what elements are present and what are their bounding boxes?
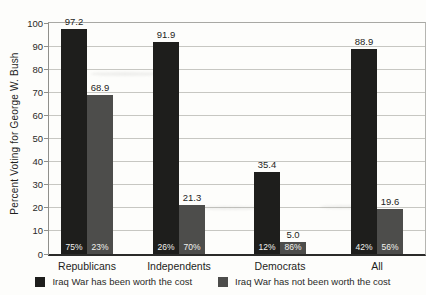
x-category-label-democrats: Democrats [255, 260, 306, 272]
legend-label-worth: Iraq War has been worth the cost [52, 276, 192, 287]
bar-republicans-worth: 97.275% [61, 29, 87, 254]
y-tick-60 [44, 115, 49, 116]
legend-item-worth: Iraq War has been worth the cost [35, 276, 192, 287]
y-tick-20 [44, 207, 49, 208]
bar-chart-figure: Percent Voting for George W. Bush 010203… [0, 0, 426, 295]
scan-artifact [90, 72, 160, 76]
y-tick-80 [44, 69, 49, 70]
legend-label-not-worth: Iraq War has not been worth the cost [235, 276, 390, 287]
y-tick-label-90: 90 [17, 41, 43, 52]
y-tick-label-70: 70 [17, 87, 43, 98]
bar-all-not-worth: 19.656% [377, 209, 403, 254]
y-tick-label-100: 100 [17, 18, 43, 29]
bar-inside-label: 23% [87, 242, 113, 252]
y-tick-label-80: 80 [17, 64, 43, 75]
plot-area: 010203040506070809010097.275%68.923%Repu… [48, 22, 426, 256]
legend-swatch-dark [35, 277, 45, 287]
legend: Iraq War has been worth the cost Iraq Wa… [0, 276, 426, 287]
y-tick-label-10: 10 [17, 225, 43, 236]
y-tick-label-50: 50 [17, 133, 43, 144]
bar-value-label: 5.0 [286, 229, 299, 240]
y-tick-40 [44, 161, 49, 162]
y-tick-50 [44, 138, 49, 139]
bar-inside-label: 42% [351, 242, 377, 252]
bar-inside-label: 12% [254, 242, 280, 252]
bar-all-worth: 88.942% [351, 49, 377, 254]
bar-democrats-not-worth: 5.086% [280, 242, 306, 254]
bar-independents-worth: 91.926% [153, 42, 179, 254]
bar-inside-label: 70% [179, 242, 205, 252]
x-category-label-independents: Independents [147, 260, 211, 272]
bar-value-label: 21.3 [183, 192, 202, 203]
legend-item-not-worth: Iraq War has not been worth the cost [218, 276, 390, 287]
bar-inside-label: 75% [61, 242, 87, 252]
bar-value-label: 88.9 [355, 36, 374, 47]
legend-swatch-gray [218, 277, 228, 287]
y-tick-30 [44, 184, 49, 185]
bar-value-label: 19.6 [381, 196, 400, 207]
y-tick-10 [44, 230, 49, 231]
bar-inside-label: 26% [153, 242, 179, 252]
y-tick-label-40: 40 [17, 156, 43, 167]
bar-inside-label: 56% [377, 242, 403, 252]
bar-republicans-not-worth: 68.923% [87, 95, 113, 254]
y-tick-90 [44, 46, 49, 47]
bar-value-label: 35.4 [258, 159, 277, 170]
y-tick-label-60: 60 [17, 110, 43, 121]
y-tick-0 [44, 254, 49, 255]
y-tick-100 [44, 23, 49, 24]
y-tick-label-30: 30 [17, 179, 43, 190]
scan-artifact [200, 206, 260, 210]
y-tick-label-0: 0 [17, 249, 43, 260]
bar-value-label: 97.2 [65, 16, 84, 27]
bar-independents-not-worth: 21.370% [179, 205, 205, 254]
bar-value-label: 91.9 [157, 29, 176, 40]
y-tick-label-20: 20 [17, 202, 43, 213]
y-tick-70 [44, 92, 49, 93]
bar-value-label: 68.9 [91, 82, 110, 93]
bar-inside-label: 86% [280, 242, 306, 252]
x-category-label-republicans: Republicans [58, 260, 116, 272]
x-category-label-all: All [371, 260, 383, 272]
bar-democrats-worth: 35.412% [254, 172, 280, 254]
